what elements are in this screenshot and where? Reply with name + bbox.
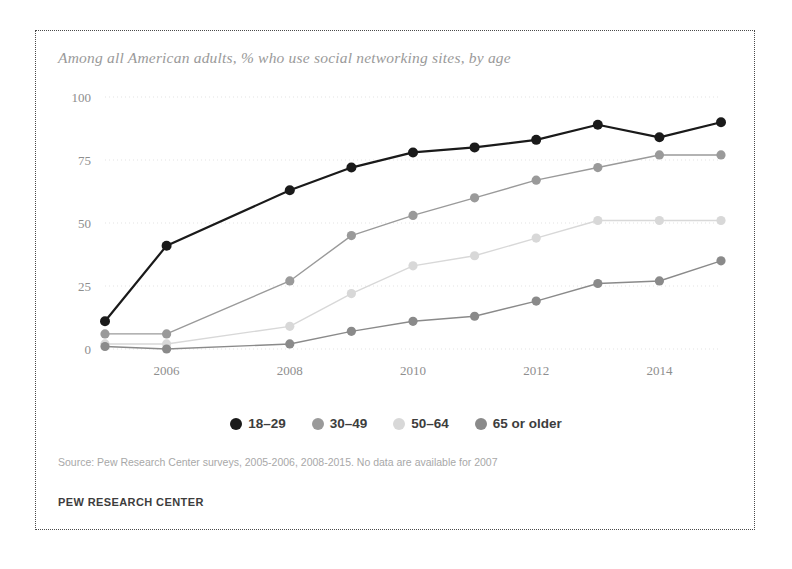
x-tick-label: 2006 bbox=[154, 363, 181, 378]
x-tick-label: 2014 bbox=[646, 363, 673, 378]
legend-item-label: 30–49 bbox=[330, 416, 368, 431]
data-point-marker bbox=[162, 329, 171, 338]
data-point-marker bbox=[162, 344, 171, 353]
legend-marker-icon bbox=[475, 418, 487, 430]
legend-item-label: 18–29 bbox=[248, 416, 286, 431]
data-point-marker bbox=[470, 251, 479, 260]
data-point-marker bbox=[347, 327, 356, 336]
data-point-marker bbox=[593, 279, 602, 288]
data-point-marker bbox=[532, 234, 541, 243]
data-point-marker bbox=[470, 193, 479, 202]
x-tick-label: 2010 bbox=[400, 363, 426, 378]
data-point-marker bbox=[285, 185, 295, 195]
y-tick-label: 25 bbox=[78, 279, 91, 294]
gridlines-group bbox=[105, 97, 721, 349]
series-line bbox=[105, 155, 721, 334]
data-point-marker bbox=[654, 132, 664, 142]
data-point-marker bbox=[347, 289, 356, 298]
legend-item-label: 65 or older bbox=[493, 416, 562, 431]
data-point-marker bbox=[408, 317, 417, 326]
data-point-marker bbox=[593, 216, 602, 225]
source-note: Source: Pew Research Center surveys, 200… bbox=[58, 456, 498, 468]
data-point-marker bbox=[100, 342, 109, 351]
legend-marker-icon bbox=[312, 418, 324, 430]
legend-item[interactable]: 18–29 bbox=[230, 416, 286, 431]
x-tick-label: 2012 bbox=[523, 363, 549, 378]
y-tick-label: 0 bbox=[85, 342, 92, 357]
data-point-marker bbox=[285, 276, 294, 285]
x-tick-label: 2008 bbox=[277, 363, 303, 378]
y-tick-label: 100 bbox=[72, 90, 92, 105]
data-point-marker bbox=[655, 150, 664, 159]
line-chart-svg: 0255075100 20062008201020122014 bbox=[36, 31, 756, 411]
data-point-marker bbox=[346, 163, 356, 173]
data-point-marker bbox=[162, 241, 172, 251]
series-line bbox=[105, 261, 721, 349]
data-point-marker bbox=[408, 147, 418, 157]
data-point-marker bbox=[285, 322, 294, 331]
data-point-marker bbox=[100, 329, 109, 338]
data-point-marker bbox=[408, 211, 417, 220]
chart-legend: 18–2930–4950–6465 or older bbox=[36, 416, 756, 431]
legend-item-label: 50–64 bbox=[411, 416, 449, 431]
data-point-marker bbox=[100, 316, 110, 326]
data-point-marker bbox=[716, 216, 725, 225]
y-tick-label: 50 bbox=[78, 216, 91, 231]
data-point-marker bbox=[285, 339, 294, 348]
data-point-marker bbox=[531, 135, 541, 145]
data-point-marker bbox=[470, 312, 479, 321]
legend-marker-icon bbox=[393, 418, 405, 430]
data-point-marker bbox=[655, 276, 664, 285]
data-point-marker bbox=[532, 176, 541, 185]
data-point-marker bbox=[408, 261, 417, 270]
data-point-marker bbox=[593, 120, 603, 130]
data-point-marker bbox=[716, 150, 725, 159]
y-tick-label: 75 bbox=[78, 153, 91, 168]
data-point-marker bbox=[716, 256, 725, 265]
legend-marker-icon bbox=[230, 418, 242, 430]
legend-item[interactable]: 65 or older bbox=[475, 416, 562, 431]
x-axis-tick-labels: 20062008201020122014 bbox=[154, 363, 673, 378]
data-point-marker bbox=[716, 117, 726, 127]
legend-item[interactable]: 30–49 bbox=[312, 416, 368, 431]
chart-figure: Among all American adults, % who use soc… bbox=[35, 30, 755, 530]
legend-item[interactable]: 50–64 bbox=[393, 416, 449, 431]
series-markers-group bbox=[100, 117, 726, 353]
organization-footer: PEW RESEARCH CENTER bbox=[58, 496, 204, 508]
data-point-marker bbox=[347, 231, 356, 240]
data-point-marker bbox=[470, 142, 480, 152]
data-point-marker bbox=[532, 297, 541, 306]
data-point-marker bbox=[655, 216, 664, 225]
y-axis-tick-labels: 0255075100 bbox=[72, 90, 92, 357]
data-point-marker bbox=[593, 163, 602, 172]
